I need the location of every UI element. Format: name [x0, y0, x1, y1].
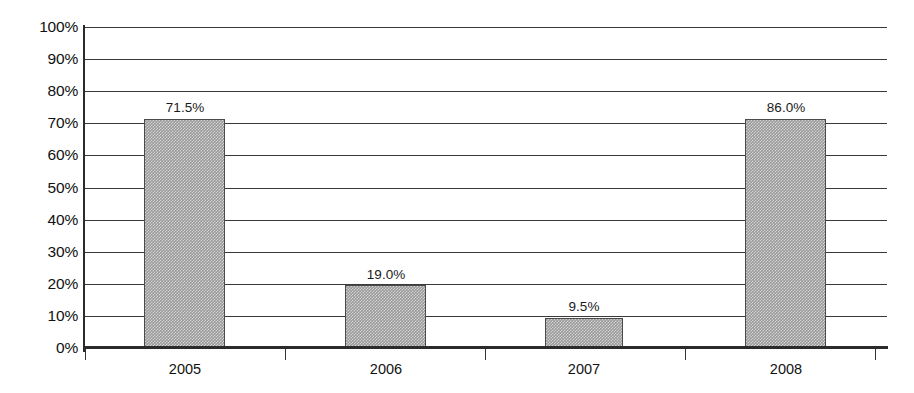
- bar-value-label-2007: 9.5%: [569, 300, 600, 314]
- bar-value-label-2005: 71.5%: [166, 101, 204, 115]
- bar-value-label-2008: 86.0%: [767, 101, 805, 115]
- bar-2008: [745, 119, 826, 349]
- y-axis-line: [83, 25, 85, 352]
- y-tick-label: 80%: [0, 83, 78, 99]
- x-category-label-2006: 2006: [370, 362, 402, 377]
- y-tick-label: 10%: [0, 308, 78, 324]
- y-tick-label: 100%: [0, 19, 78, 35]
- y-axis-labels: 100% 90% 80% 70% 60% 50% 40% 30% 20% 10%…: [0, 0, 78, 393]
- x-category-label-2007: 2007: [568, 362, 600, 377]
- bar-2007: [545, 318, 623, 349]
- gridline: [84, 91, 887, 92]
- y-tick-label: 60%: [0, 148, 78, 164]
- y-tick-label: 90%: [0, 51, 78, 67]
- y-tick-label: 70%: [0, 116, 78, 132]
- x-axis-tick: [285, 349, 286, 360]
- y-tick-label: 40%: [0, 212, 78, 228]
- y-tick-label: 20%: [0, 276, 78, 292]
- x-category-label-2005: 2005: [169, 362, 201, 377]
- plot-area: [84, 27, 887, 348]
- x-axis-tick: [685, 349, 686, 360]
- x-axis-tick: [875, 349, 876, 360]
- bar-2006: [345, 285, 426, 348]
- x-category-label-2008: 2008: [770, 362, 802, 377]
- x-axis-tick: [485, 349, 486, 360]
- y-tick-label: 30%: [0, 244, 78, 260]
- bar-value-label-2006: 19.0%: [367, 268, 405, 282]
- gridline: [84, 59, 887, 60]
- bar-2005: [144, 119, 225, 349]
- x-axis-tick: [85, 349, 86, 360]
- bar-chart: 100% 90% 80% 70% 60% 50% 40% 30% 20% 10%…: [0, 0, 914, 393]
- y-tick-label: 50%: [0, 180, 78, 196]
- y-tick-label: 0%: [0, 340, 78, 356]
- gridline: [84, 27, 887, 28]
